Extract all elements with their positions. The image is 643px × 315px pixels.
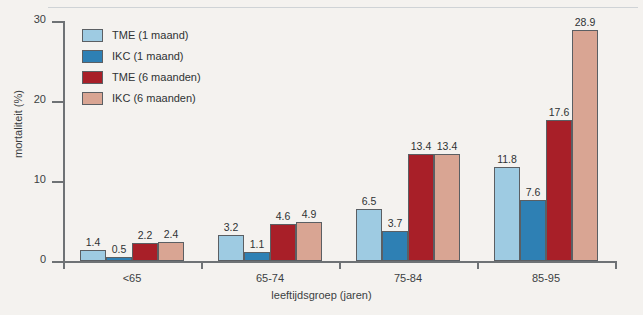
bar	[244, 252, 270, 261]
x-tick-mark	[201, 261, 203, 269]
bar	[572, 30, 598, 261]
bar-value-label: 17.6	[542, 106, 576, 118]
legend-swatch	[82, 71, 103, 84]
x-tick-mark	[339, 261, 341, 269]
x-group-label: 65-74	[201, 272, 339, 284]
y-tick-label: 30	[0, 13, 46, 25]
y-tick-label: 20	[0, 93, 46, 105]
bar	[132, 243, 158, 261]
y-tick-label: 10	[0, 173, 46, 185]
bar-value-label: 0.5	[102, 243, 136, 255]
x-group-label: <65	[63, 272, 201, 284]
bar	[494, 167, 520, 261]
bar-value-label: 7.6	[516, 186, 550, 198]
bar	[520, 200, 546, 261]
bar	[408, 154, 434, 261]
bar	[382, 231, 408, 261]
legend-label: TME (6 maanden)	[112, 71, 201, 83]
bar	[270, 224, 296, 261]
legend-label: IKC (6 maanden)	[112, 92, 196, 104]
x-axis-title: leeftijdsgroep (jaren)	[0, 289, 643, 301]
x-tick-mark	[615, 261, 617, 269]
bar	[434, 154, 460, 261]
bar-value-label: 6.5	[352, 195, 386, 207]
bar	[106, 257, 132, 261]
legend-swatch	[82, 29, 103, 42]
bar-value-label: 2.4	[154, 228, 188, 240]
x-tick-mark	[477, 261, 479, 269]
bar	[158, 242, 184, 261]
chart-legend: TME (1 maand)IKC (1 maand)TME (6 maanden…	[82, 26, 201, 110]
bar-value-label: 3.2	[214, 221, 248, 233]
legend-swatch	[82, 92, 103, 105]
bar-value-label: 13.4	[430, 140, 464, 152]
y-tick-mark	[52, 181, 63, 183]
x-group-label: 75-84	[339, 272, 477, 284]
legend-item: IKC (6 maanden)	[82, 89, 201, 107]
legend-item: TME (1 maand)	[82, 26, 201, 44]
bar-chart: mortaliteit (%) leeftijdsgroep (jaren) 3…	[0, 0, 643, 315]
legend-label: TME (1 maand)	[112, 29, 188, 41]
y-tick-mark	[52, 21, 63, 23]
legend-label: IKC (1 maand)	[112, 50, 184, 62]
bar-value-label: 4.9	[292, 208, 326, 220]
bar-value-label: 1.1	[240, 238, 274, 250]
y-tick-mark	[52, 101, 63, 103]
legend-item: TME (6 maanden)	[82, 68, 201, 86]
bar-value-label: 11.8	[490, 153, 524, 165]
bar-value-label: 3.7	[378, 217, 412, 229]
x-group-label: 85-95	[477, 272, 615, 284]
y-tick-mark	[52, 261, 63, 263]
x-tick-mark	[63, 261, 65, 269]
bar	[546, 120, 572, 261]
y-tick-label: 0	[0, 253, 46, 265]
bar	[296, 222, 322, 261]
legend-item: IKC (1 maand)	[82, 47, 201, 65]
legend-swatch	[82, 50, 103, 63]
bar-value-label: 28.9	[568, 16, 602, 28]
